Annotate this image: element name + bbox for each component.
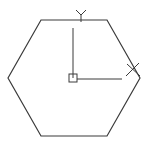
canvas-background [0, 0, 151, 150]
drawing-canvas[interactable] [0, 0, 151, 150]
